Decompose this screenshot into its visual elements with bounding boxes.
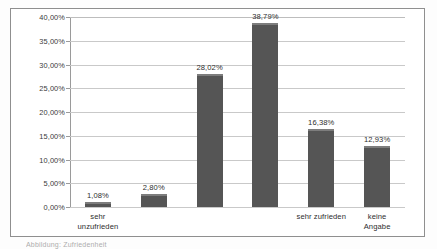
bar — [141, 194, 167, 207]
y-axis-tick-label: 30,00% — [39, 60, 65, 69]
y-axis-tick-label: 10,00% — [39, 155, 65, 164]
y-axis-tick-mark — [66, 136, 70, 137]
y-axis-tick-label: 25,00% — [39, 84, 65, 93]
plot-area: 0,00%5,00%10,00%15,00%20,00%25,00%30,00%… — [70, 17, 405, 207]
y-axis-tick-label: 5,00% — [44, 179, 65, 188]
y-axis-tick-label: 15,00% — [39, 131, 65, 140]
x-axis-category-label: sehr unzufrieden — [78, 212, 119, 231]
bar-value-label: 16,38% — [308, 118, 334, 127]
figure-caption: Abbildung: Zufriedenheit — [26, 241, 426, 249]
gridline — [70, 183, 405, 184]
bar — [85, 202, 111, 207]
x-axis-category-label: sehr zufrieden — [296, 212, 346, 222]
gridline — [70, 41, 405, 42]
gridline — [70, 207, 405, 208]
y-axis-tick-mark — [66, 41, 70, 42]
gridline — [70, 88, 405, 89]
y-axis-tick-label: 35,00% — [39, 36, 65, 45]
y-axis-tick-mark — [66, 207, 70, 208]
gridline — [70, 112, 405, 113]
bar — [252, 23, 278, 207]
bar-chart-figure: 0,00%5,00%10,00%15,00%20,00%25,00%30,00%… — [0, 0, 437, 249]
y-axis-tick-mark — [66, 65, 70, 66]
y-axis-tick-mark — [66, 17, 70, 18]
bar-value-label: 1,08% — [87, 191, 109, 200]
gridline — [70, 65, 405, 66]
gridline — [70, 136, 405, 137]
y-axis-tick-label: 40,00% — [39, 13, 65, 22]
y-axis-tick-mark — [66, 160, 70, 161]
bar-value-label: 12,93% — [364, 135, 390, 144]
y-axis-tick-mark — [66, 112, 70, 113]
bar — [197, 74, 223, 207]
gridline — [70, 160, 405, 161]
bar-value-label: 38,79% — [252, 12, 278, 21]
bar — [308, 129, 334, 207]
y-axis-tick-mark — [66, 88, 70, 89]
y-axis-tick-mark — [66, 183, 70, 184]
x-axis-category-label: keine Angabe — [363, 212, 391, 231]
y-axis-tick-label: 20,00% — [39, 108, 65, 117]
bar-value-label: 2,80% — [143, 183, 165, 192]
y-axis-tick-label: 0,00% — [44, 203, 65, 212]
bar-value-label: 28,02% — [196, 63, 222, 72]
bar — [364, 146, 390, 207]
gridline — [70, 17, 405, 18]
